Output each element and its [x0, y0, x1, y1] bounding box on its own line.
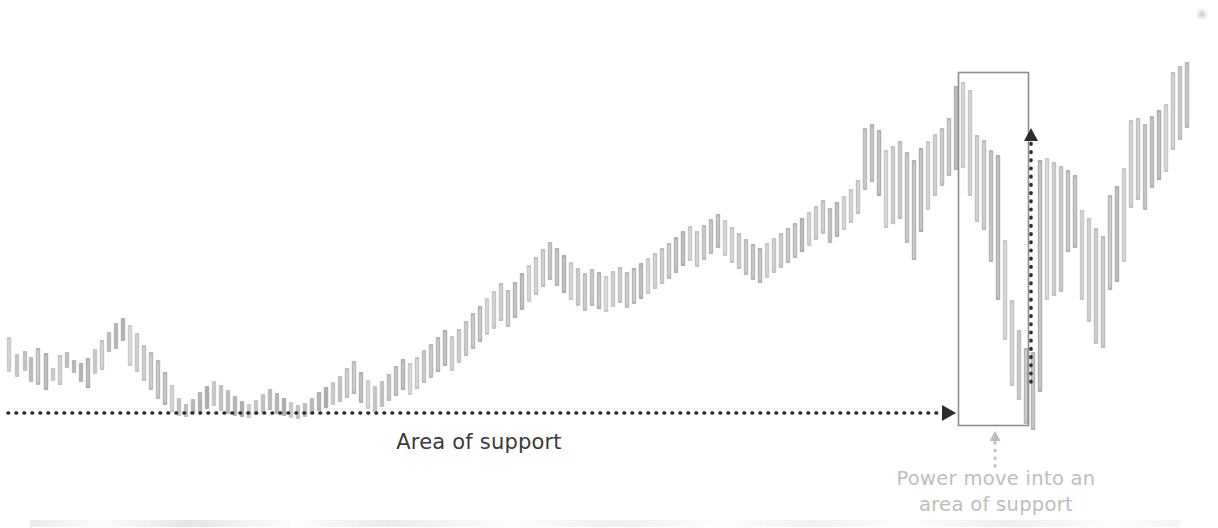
- price-bar: [72, 360, 76, 373]
- price-bar-core: [1102, 239, 1104, 346]
- price-bar-core: [661, 251, 663, 282]
- price-bar-core: [493, 294, 495, 327]
- support-line-arrowhead: [942, 405, 956, 421]
- price-bar-core: [591, 272, 593, 304]
- scan-artifact-bottom-text: [30, 520, 1180, 527]
- price-bar-core: [955, 89, 957, 168]
- price-bar-core: [1025, 351, 1027, 422]
- price-bar-core: [738, 236, 740, 267]
- price-bar-core: [801, 221, 803, 250]
- price-bar-core: [710, 222, 712, 252]
- price-bar-core: [556, 251, 558, 284]
- chart-canvas: Area of support Power move into an area …: [0, 0, 1218, 528]
- price-bar-core: [521, 276, 523, 308]
- price-bar-core: [1109, 198, 1111, 288]
- price-bar-core: [430, 347, 432, 376]
- power-move-arrow-group: [1024, 128, 1038, 382]
- price-bar-core: [990, 153, 992, 260]
- price-bar-core: [458, 332, 460, 361]
- price-bar-core: [353, 364, 355, 392]
- price-bar-core: [864, 131, 866, 188]
- price-bar-core: [1004, 243, 1006, 338]
- price-bar-core: [388, 377, 390, 399]
- price-bar: [324, 387, 328, 408]
- power-move-caption: Power move into an area of support: [866, 466, 1126, 518]
- price-bar-core: [360, 375, 362, 401]
- price-bar-core: [402, 362, 404, 388]
- price-bar-core: [717, 217, 719, 246]
- price-bar-core: [549, 245, 551, 278]
- price-bar-core: [759, 251, 761, 281]
- price-bar-core: [829, 211, 831, 241]
- price-bar-core: [871, 127, 873, 180]
- price-bars-group: [7, 62, 1189, 430]
- price-bar: [219, 385, 223, 411]
- price-bar-core: [416, 360, 418, 387]
- price-bar-core: [1095, 231, 1097, 342]
- price-bar-core: [976, 138, 978, 220]
- price-bar-core: [906, 155, 908, 241]
- price-bar-core: [1158, 113, 1160, 178]
- price-bar-core: [437, 340, 439, 370]
- price-bar-core: [143, 348, 145, 379]
- price-bar-core: [920, 151, 922, 230]
- price-bar-core: [346, 371, 348, 396]
- power-move-caption-line-1: Power move into an: [866, 466, 1126, 492]
- price-bar-core: [983, 143, 985, 228]
- price-bar: [23, 351, 27, 371]
- support-area-label: Area of support: [0, 430, 1088, 454]
- price-bar: [226, 390, 230, 414]
- price-bar-core: [451, 339, 453, 369]
- price-bar-core: [150, 355, 152, 388]
- price-bar-core: [507, 293, 509, 325]
- price-bar-core: [1137, 121, 1139, 198]
- price-bar-core: [850, 192, 852, 221]
- price-bar-core: [626, 275, 628, 306]
- price-bar-core: [787, 231, 789, 261]
- price-bar-core: [941, 131, 943, 184]
- price-bar: [247, 404, 251, 418]
- price-bar-core: [1060, 169, 1062, 290]
- price-bar-core: [878, 133, 880, 194]
- price-bar-core: [913, 163, 915, 258]
- price-bar-core: [647, 261, 649, 292]
- price-bar: [317, 392, 321, 411]
- price-bar-core: [640, 266, 642, 297]
- price-bar-core: [1179, 69, 1181, 138]
- price-bar-core: [171, 388, 173, 410]
- price-bar-core: [927, 144, 929, 208]
- price-bar-core: [843, 199, 845, 228]
- price-bar-core: [633, 271, 635, 302]
- price-bar-core: [584, 276, 586, 309]
- price-bar-core: [395, 369, 397, 394]
- price-bar-core: [773, 241, 775, 271]
- price-bar-core: [101, 343, 103, 368]
- price-bar: [198, 392, 202, 412]
- price-bar-core: [822, 203, 824, 232]
- price-bar-core: [808, 215, 810, 244]
- price-bar-core: [794, 226, 796, 256]
- price-bar-core: [934, 137, 936, 194]
- price-bar: [261, 394, 265, 413]
- price-bar-core: [668, 246, 670, 277]
- price-bar: [212, 381, 216, 406]
- price-bar-core: [1151, 119, 1153, 186]
- price-bar-core: [1123, 171, 1125, 260]
- price-bar: [380, 381, 384, 407]
- price-bar-core: [724, 223, 726, 254]
- price-bar-core: [969, 93, 971, 194]
- price-bar-core: [703, 228, 705, 258]
- support-line-group: [8, 405, 956, 421]
- price-bar-core: [962, 85, 964, 166]
- price-bar-core: [1074, 178, 1076, 246]
- price-bar-core: [423, 353, 425, 381]
- price-bar-core: [752, 247, 754, 278]
- price-bar-core: [563, 258, 565, 291]
- price-bar-core: [745, 242, 747, 273]
- price-bar-core: [1046, 161, 1048, 298]
- price-bar-core: [367, 383, 369, 407]
- price-bar-core: [528, 268, 530, 300]
- price-bar-core: [164, 375, 166, 403]
- price-bar: [114, 323, 118, 349]
- price-bar-core: [472, 316, 474, 347]
